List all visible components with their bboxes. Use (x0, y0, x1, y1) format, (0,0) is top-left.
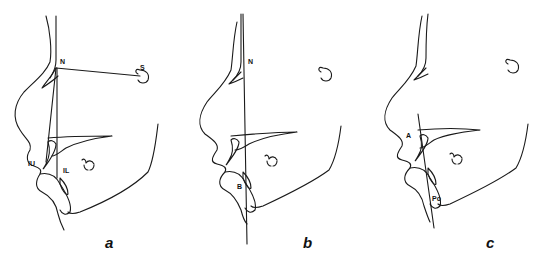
label-n: N (60, 58, 65, 65)
label-a: A (406, 132, 411, 139)
panel-c: A Po c (362, 0, 543, 262)
panel-a: N S IU IL a (0, 0, 181, 262)
panel-b: N B b (181, 0, 362, 262)
profile-tracing-c (362, 0, 543, 262)
label-s: S (140, 64, 145, 71)
profile-tracing-b (181, 0, 362, 262)
caption-a: a (105, 234, 113, 251)
caption-c: c (486, 234, 494, 251)
label-po: Po (432, 195, 441, 202)
label-iu: IU (28, 160, 35, 167)
label-b: B (237, 183, 242, 190)
profile-tracing-a (0, 0, 181, 262)
label-il: IL (63, 167, 69, 174)
caption-b: b (303, 234, 312, 251)
label-n: N (248, 58, 253, 65)
